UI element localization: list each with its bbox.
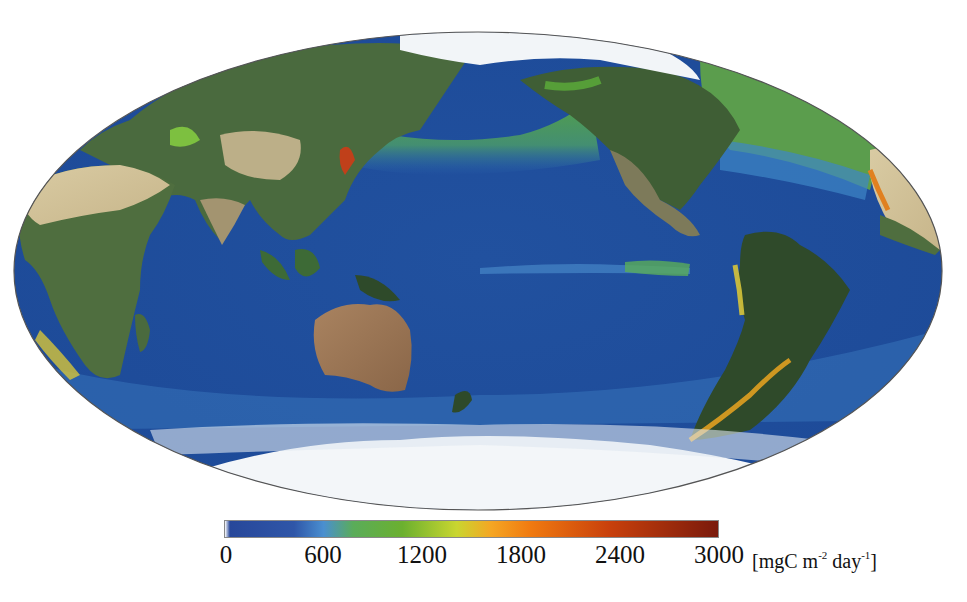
colorbar-tick-1800: 1800	[496, 540, 546, 570]
colorbar-tick-1200: 1200	[397, 540, 447, 570]
colorbar-tick-600: 600	[304, 540, 342, 570]
unit-exponent-1: -2	[818, 549, 827, 561]
unit-exponent-2: -1	[861, 549, 870, 561]
mollweide-map	[0, 0, 967, 520]
unit-prefix: [mgC m	[752, 550, 818, 572]
colorbar-tick-2400: 2400	[595, 540, 645, 570]
unit-suffix: ]	[870, 550, 877, 572]
colorbar-tick-0: 0	[220, 540, 233, 570]
colorbar	[224, 520, 719, 538]
globe-content	[0, 0, 967, 520]
colorbar-unit-label: [mgC m-2 day-1]	[752, 540, 877, 576]
unit-mid: day	[827, 550, 861, 572]
npp-world-map	[0, 0, 967, 520]
colorbar-tick-3000: 3000	[694, 540, 744, 570]
